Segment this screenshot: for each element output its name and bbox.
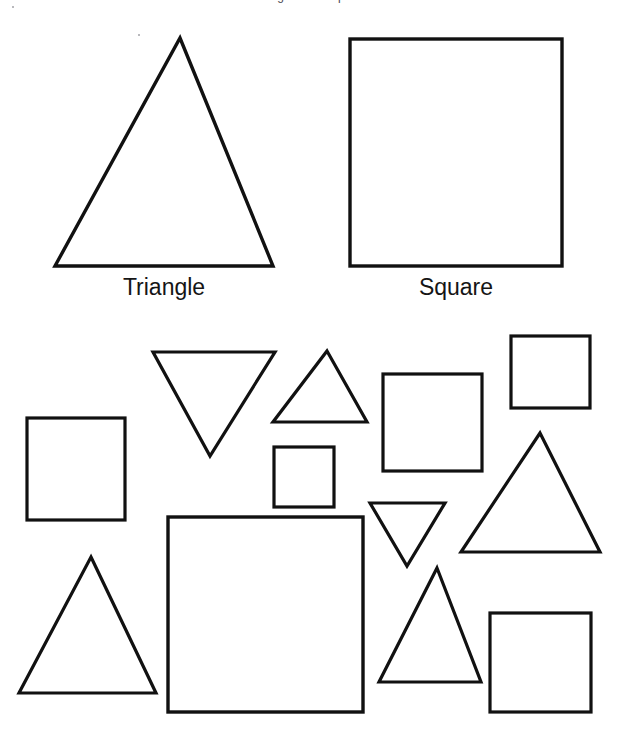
field-square-top-right bbox=[511, 336, 590, 408]
key-square-shape bbox=[350, 39, 562, 266]
scan-speck-2 bbox=[138, 34, 140, 36]
scan-speck-1 bbox=[12, 6, 14, 8]
key-label-square: Square bbox=[336, 274, 576, 300]
key-label-triangle: Triangle bbox=[44, 274, 284, 300]
field-square-left bbox=[27, 418, 125, 520]
field-triangle-down-large bbox=[153, 352, 275, 456]
field-square-largest bbox=[168, 517, 363, 712]
shapes-svg bbox=[0, 0, 621, 736]
field-triangle-down-small bbox=[370, 503, 445, 566]
field-triangle-up-bottom-left bbox=[19, 557, 156, 693]
shape-worksheet: Triangles and Squares Triangle Square bbox=[0, 0, 621, 736]
field-square-tiny bbox=[274, 447, 334, 507]
shape-canvas bbox=[0, 0, 621, 736]
field-square-bottom-right bbox=[490, 613, 591, 712]
field-triangle-up-bottom-right bbox=[379, 568, 481, 682]
field-triangle-up-small bbox=[273, 351, 367, 422]
key-triangle-shape bbox=[55, 38, 273, 266]
field-square-middle bbox=[383, 374, 482, 471]
